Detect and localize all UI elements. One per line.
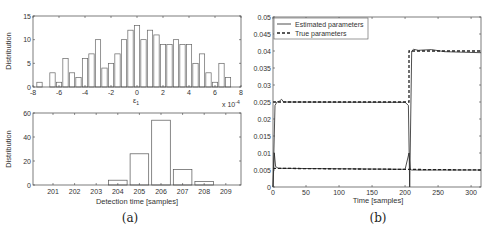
histogram-bar: [180, 44, 185, 87]
histogram-bar: [69, 73, 74, 87]
svg-text:0: 0: [27, 182, 31, 189]
epsilon-histogram: -8-6-4-202468051015: [23, 13, 243, 97]
histogram-bar: [89, 54, 94, 87]
svg-text:5: 5: [27, 60, 31, 67]
svg-text:60: 60: [23, 110, 31, 117]
svg-text:0.045: 0.045: [253, 31, 271, 38]
svg-text:205: 205: [134, 188, 146, 195]
histogram-bar: [95, 40, 100, 87]
svg-text:0.005: 0.005: [253, 167, 271, 174]
detection-time-histogram: 2012022032042052062072082090204060: [23, 110, 241, 196]
histogram-bar: [225, 78, 230, 87]
tl-ylabel: Distribution: [4, 32, 13, 70]
bl-xlabel: Detection time [samples]: [96, 197, 178, 206]
histogram-bar: [108, 63, 113, 87]
svg-text:0.02: 0.02: [257, 116, 271, 123]
histogram-bar: [130, 154, 149, 185]
svg-text:250: 250: [432, 189, 444, 196]
true-parameter-line: [273, 51, 481, 102]
estimated-parameter-line: [273, 49, 481, 187]
svg-text:0.015: 0.015: [253, 133, 271, 140]
svg-text:0.01: 0.01: [257, 150, 271, 157]
legend: Estimated parameters True parameters: [274, 18, 368, 39]
svg-text:6: 6: [213, 89, 217, 96]
svg-text:206: 206: [155, 188, 167, 195]
histogram-bar: [63, 59, 68, 87]
histogram-bar: [219, 63, 224, 87]
histogram-bar: [167, 44, 172, 87]
svg-text:20: 20: [23, 158, 31, 165]
svg-text:208: 208: [198, 188, 210, 195]
svg-text:200: 200: [399, 189, 411, 196]
legend-estimated: Estimated parameters: [295, 21, 364, 29]
svg-text:0: 0: [267, 184, 271, 191]
caption-b: (b): [369, 211, 386, 225]
histogram-bar: [121, 40, 126, 87]
svg-text:0.04: 0.04: [257, 48, 271, 55]
caption-a: (a): [122, 211, 139, 225]
svg-text:201: 201: [47, 188, 59, 195]
svg-text:207: 207: [177, 188, 189, 195]
histogram-bar: [152, 120, 171, 185]
svg-text:0: 0: [271, 189, 275, 196]
histogram-bar: [134, 25, 139, 87]
svg-text:40: 40: [23, 134, 31, 141]
svg-text:0.05: 0.05: [257, 14, 271, 21]
histogram-bar: [82, 59, 87, 87]
legend-true: True parameters: [295, 30, 347, 38]
histogram-bar: [76, 78, 81, 87]
histogram-bar: [128, 30, 133, 87]
svg-text:10: 10: [23, 36, 31, 43]
svg-text:204: 204: [112, 188, 124, 195]
histogram-bar: [147, 30, 152, 87]
histogram-bar: [160, 44, 165, 87]
histogram-bar: [154, 35, 159, 87]
estimated-parameter-line: [273, 153, 481, 187]
svg-text:0: 0: [27, 84, 31, 91]
bl-ylabel: Distribution: [4, 130, 13, 168]
histogram-bar: [199, 54, 204, 87]
histogram-bar: [50, 73, 55, 87]
histogram-bar: [115, 54, 120, 87]
svg-text:0.03: 0.03: [257, 82, 271, 89]
svg-text:4: 4: [187, 89, 191, 96]
svg-text:0.025: 0.025: [253, 99, 271, 106]
tl-xlabel: ε1: [133, 96, 139, 106]
right-xlabel: Time [samples]: [353, 196, 404, 205]
svg-text:8: 8: [239, 89, 243, 96]
histogram-bar: [186, 44, 191, 87]
svg-text:300: 300: [465, 189, 477, 196]
svg-text:-4: -4: [82, 89, 88, 96]
svg-text:202: 202: [69, 188, 81, 195]
histogram-bar: [173, 169, 192, 185]
svg-text:0.035: 0.035: [253, 65, 271, 72]
svg-text:0: 0: [135, 89, 139, 96]
svg-text:15: 15: [23, 13, 31, 20]
svg-text:50: 50: [302, 189, 310, 196]
histogram-bar: [102, 68, 107, 87]
histogram-bar: [141, 40, 146, 87]
svg-text:100: 100: [333, 189, 345, 196]
svg-text:203: 203: [90, 188, 102, 195]
histogram-bar: [193, 63, 198, 87]
svg-text:2: 2: [161, 89, 165, 96]
figure: -8-6-4-202468051015 20120220320420520620…: [0, 0, 493, 238]
histogram-bar: [173, 40, 178, 87]
histogram-bar: [37, 82, 42, 87]
histogram-bar: [206, 73, 211, 87]
parameter-estimation-plot: 05010015020025030000.0050.010.0150.020.0…: [253, 14, 481, 197]
tl-multiplier: x 10-4: [222, 99, 240, 108]
svg-text:-6: -6: [56, 89, 62, 96]
svg-text:-2: -2: [108, 89, 114, 96]
svg-text:150: 150: [366, 189, 378, 196]
svg-text:209: 209: [220, 188, 232, 195]
